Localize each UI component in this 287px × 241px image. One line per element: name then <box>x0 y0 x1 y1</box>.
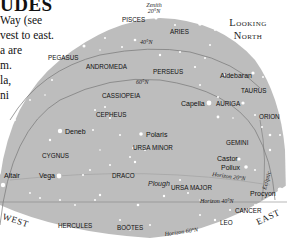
star-aldebaran: Aldebaran <box>220 72 252 79</box>
star-polaris: Polaris <box>146 131 168 138</box>
star-castor: Castor <box>217 155 238 162</box>
constellation-ursa-minor: URSA MINOR <box>133 144 173 151</box>
star-capella: Capella <box>181 100 205 108</box>
constellation-aries: ARIES <box>170 28 189 35</box>
constellation-hercules: HERCULES <box>58 222 92 229</box>
constellation-cepheus: CEPHEUS <box>96 111 126 118</box>
constellation-auriga: AURIGA <box>216 100 241 107</box>
star-procyon: Procyon <box>250 190 276 198</box>
zenith-latitude: 20°N <box>148 8 161 14</box>
star-deneb: Deneb <box>65 128 86 135</box>
constellation-pegasus: PEGASUS <box>48 54 78 61</box>
constellation-bootes: BOÖTES <box>117 224 143 231</box>
constellation-cygnus: CYGNUS <box>42 152 69 159</box>
star-vega: Vega <box>39 172 55 180</box>
latitude-label-40: 40°N <box>140 39 153 45</box>
constellation-andromeda: ANDROMEDA <box>86 63 128 70</box>
star-altair: Altair <box>4 172 21 179</box>
constellation-orion: ORION <box>259 113 280 120</box>
star-chart: Zenith 20°N 40°N 60°N PISCES ARIES PEGAS… <box>0 0 287 241</box>
latitude-label-60: 60°N <box>136 79 149 85</box>
constellation-taurus: TAURUS <box>241 87 266 94</box>
constellation-draco: DRACO <box>112 172 135 179</box>
constellation-perseus: PERSEUS <box>153 68 183 75</box>
horizon-label-40: Horizon 40°N <box>199 198 235 204</box>
constellation-cancer: CANCER <box>235 207 262 214</box>
constellation-gemini: GEMINI <box>226 139 249 146</box>
constellation-cassiopeia: CASSIOPEIA <box>102 92 141 99</box>
constellation-pisces: PISCES <box>122 16 145 23</box>
asterism-plough: Plough <box>148 180 170 188</box>
constellation-ursa-major: URSA MAJOR <box>171 184 212 191</box>
star-pollux: Pollux <box>221 164 241 171</box>
constellation-leo: LEO <box>220 219 233 226</box>
